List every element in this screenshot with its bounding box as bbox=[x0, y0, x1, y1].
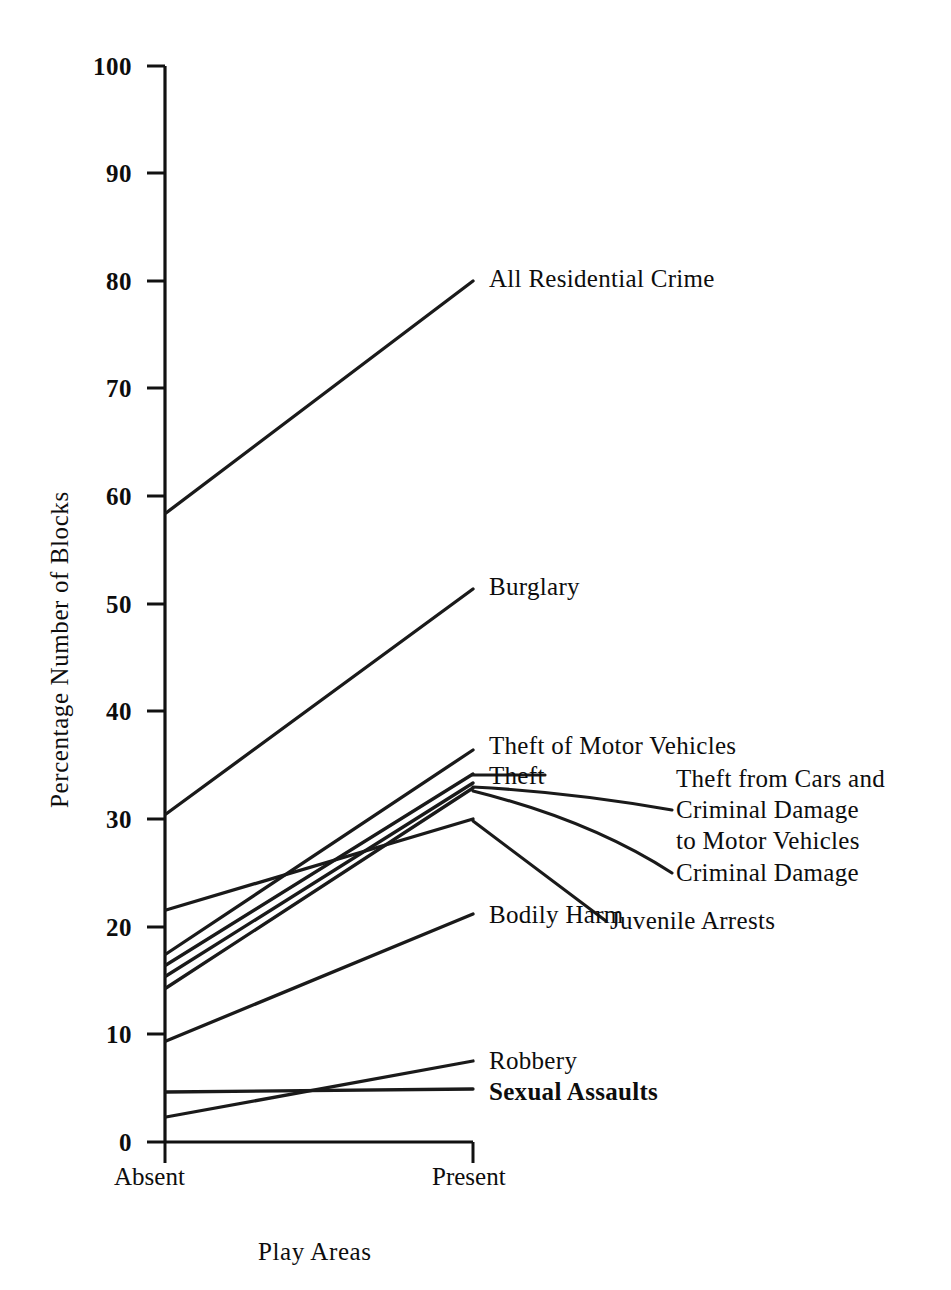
ytick-label-70: 70 bbox=[60, 376, 132, 401]
series-line-bodily-harm bbox=[166, 914, 473, 1041]
series-label-theft-of-motor-vehicles: Theft of Motor Vehicles bbox=[489, 731, 736, 761]
x-axis bbox=[165, 1142, 473, 1163]
series-label-juvenile-arrests: Juvenile Arrests bbox=[610, 906, 775, 936]
series-lines bbox=[166, 281, 473, 1117]
ytick-label-0: 0 bbox=[60, 1130, 132, 1155]
series-label-theft-from-cars-line2: Criminal Damage bbox=[676, 795, 859, 825]
ytick-label-30: 30 bbox=[60, 807, 132, 832]
leader-criminal-damage bbox=[473, 791, 672, 873]
series-label-theft: Theft bbox=[489, 761, 545, 791]
ytick-label-20: 20 bbox=[60, 915, 132, 940]
x-axis-title: Play Areas bbox=[258, 1238, 372, 1266]
ytick-label-80: 80 bbox=[60, 269, 132, 294]
xtick-label-absent: Absent bbox=[114, 1163, 185, 1190]
series-line-all-residential-crime bbox=[166, 281, 473, 513]
y-axis bbox=[147, 66, 165, 1143]
plot-canvas bbox=[0, 0, 951, 1290]
line-chart-figure: 100 90 80 70 60 50 40 30 20 10 0 Absent … bbox=[0, 0, 951, 1290]
series-label-all-residential-crime: All Residential Crime bbox=[489, 264, 715, 294]
series-label-sexual-assaults: Sexual Assaults bbox=[489, 1077, 658, 1107]
series-label-bodily-harm: Bodily Harm bbox=[489, 900, 624, 930]
ytick-label-10: 10 bbox=[60, 1022, 132, 1047]
series-line-theft bbox=[166, 774, 473, 965]
series-line-theft-from-cars bbox=[166, 783, 473, 976]
series-label-theft-from-cars-line3: to Motor Vehicles bbox=[676, 826, 860, 856]
series-line-juvenile-arrests bbox=[166, 819, 473, 910]
xtick-label-present: Present bbox=[432, 1163, 506, 1190]
ytick-label-100: 100 bbox=[60, 54, 132, 79]
ytick-label-90: 90 bbox=[60, 161, 132, 186]
series-label-robbery: Robbery bbox=[489, 1046, 577, 1076]
series-label-burglary: Burglary bbox=[489, 572, 580, 602]
y-axis-title: Percentage Number of Blocks bbox=[46, 491, 74, 808]
series-label-theft-from-cars-line1: Theft from Cars and bbox=[676, 764, 885, 794]
series-label-criminal-damage: Criminal Damage bbox=[676, 858, 859, 888]
series-line-sexual-assaults bbox=[166, 1089, 473, 1092]
series-line-criminal-damage bbox=[166, 788, 473, 988]
